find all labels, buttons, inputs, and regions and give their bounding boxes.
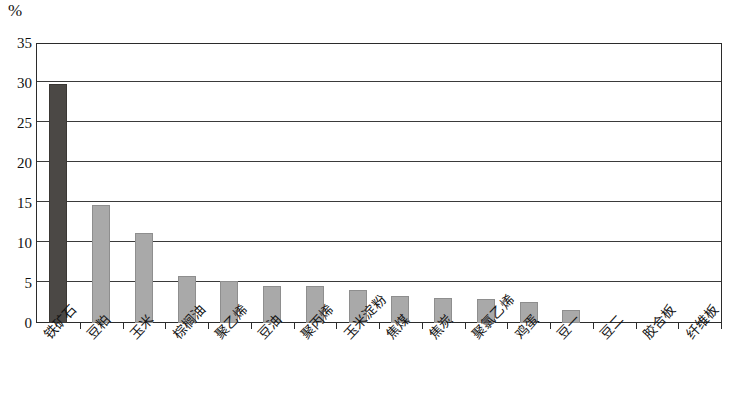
x-axis-tick [123,323,124,329]
bars-layer [37,44,721,323]
x-axis-tick [208,323,209,329]
x-axis-tick [465,323,466,329]
x-axis-tick [678,323,679,329]
x-axis-tick [721,323,722,329]
x-axis-tick [165,323,166,329]
x-axis-tick [507,323,508,329]
x-axis-tick-labels: 铁矿石豆粕玉米棕榈油聚乙烯豆油聚丙烯玉米淀粉焦煤焦炭聚氯乙烯鸡蛋豆一豆二胶合板纤… [0,330,730,410]
y-axis-tick-label: 0 [2,316,32,331]
bar-chart: % 05101520253035 铁矿石豆粕玉米棕榈油聚乙烯豆油聚丙烯玉米淀粉焦… [0,0,730,410]
x-axis-tick [593,323,594,329]
y-axis-tick-label: 5 [2,276,32,291]
y-axis-tick-label: 30 [2,76,32,91]
y-axis-unit-label: % [8,2,22,19]
x-axis-tick [550,323,551,329]
x-axis-tick [294,323,295,329]
bar [92,205,110,323]
x-axis-tick [636,323,637,329]
y-axis-tick-labels: 05101520253035 [0,43,32,323]
x-axis-tick [379,323,380,329]
bar [49,84,67,323]
y-axis-tick-label: 35 [2,36,32,51]
y-axis-tick-label: 10 [2,236,32,251]
x-axis-tick [251,323,252,329]
x-axis-tick [422,323,423,329]
x-axis-tick [336,323,337,329]
y-axis-tick-label: 20 [2,156,32,171]
x-axis-tick [80,323,81,329]
bar [135,233,153,323]
y-axis-tick-label: 15 [2,196,32,211]
y-axis-tick-label: 25 [2,116,32,131]
